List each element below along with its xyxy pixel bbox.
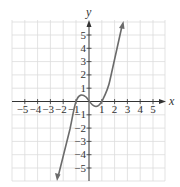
svg-text:3: 3 (81, 55, 87, 67)
svg-text:2: 2 (81, 68, 87, 80)
x-tick-labels: −5 −4 −3 −2 −1 1 2 3 4 5 (17, 103, 157, 115)
chart: −5 −4 −3 −2 −1 1 2 3 4 5 5 4 3 2 1 −1 −2… (0, 0, 180, 187)
svg-text:5: 5 (81, 29, 87, 41)
svg-text:2: 2 (112, 103, 118, 115)
svg-text:5: 5 (150, 103, 156, 115)
svg-text:−1: −1 (74, 108, 86, 120)
svg-text:−5: −5 (17, 103, 29, 115)
svg-text:3: 3 (125, 103, 131, 115)
svg-text:4: 4 (81, 42, 87, 54)
svg-text:1: 1 (81, 82, 87, 94)
svg-text:−3: −3 (42, 103, 54, 115)
curve-bottom-arrow-icon (55, 173, 61, 181)
svg-text:−2: −2 (74, 122, 86, 134)
y-axis-label: y (85, 5, 92, 19)
x-axis-label: x (168, 94, 175, 108)
svg-text:−2: −2 (55, 103, 67, 115)
svg-text:−3: −3 (74, 135, 86, 147)
y-axis-arrow-icon (87, 20, 92, 27)
svg-text:−4: −4 (29, 103, 41, 115)
svg-text:−4: −4 (74, 148, 86, 160)
svg-text:−5: −5 (74, 162, 86, 174)
svg-text:4: 4 (137, 103, 143, 115)
